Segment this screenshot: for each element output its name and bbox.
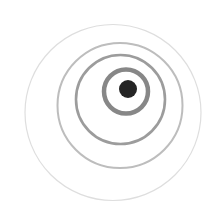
center-dot (119, 80, 137, 98)
target-rings-icon (0, 0, 216, 211)
concentric-rings-graphic (0, 0, 216, 211)
outer-ring (25, 25, 201, 201)
